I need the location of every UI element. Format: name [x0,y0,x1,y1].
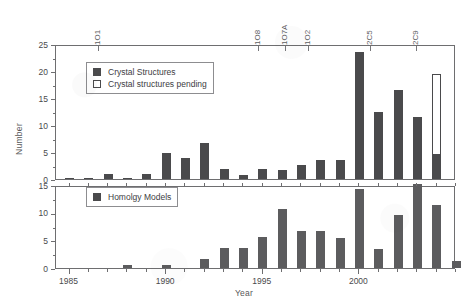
upper-y-minor-tick [53,86,56,87]
x-major-tick-1995 [262,269,263,274]
top-annotation-label-2c5: 2C5 [365,30,374,45]
upper-y-minor-tick [53,113,56,114]
mid-axis-tick [242,183,243,186]
bar-crystal-structures-1991 [181,158,190,179]
bar-crystal-structures-1996 [278,170,287,179]
mid-axis-tick [281,183,282,186]
upper-y-minor-tick [53,167,56,168]
x-tick-label-1985: 1985 [53,276,85,286]
x-minor-tick [126,269,127,272]
top-annotation-label-2c9: 2C9 [411,30,420,45]
mid-axis-tick [223,183,224,186]
x-minor-tick [223,269,224,272]
bar-homology-models-1996 [278,209,287,268]
bar-homology-models-1990 [162,265,171,268]
bar-crystal-structures-1998 [316,160,325,179]
x-minor-tick [397,269,398,272]
x-minor-tick [300,269,301,272]
upper-y-tick [51,45,55,46]
bar-crystal-structures-1985 [65,178,74,179]
bar-homology-models-2004 [432,205,441,268]
mid-axis-tick [184,183,185,186]
x-axis-title: Year [235,288,253,298]
bar-crystal-structures-2002 [394,90,403,179]
mid-axis-tick [320,183,321,186]
legend-item-homology-models: Homolgy Models [93,191,171,203]
x-minor-tick [436,269,437,272]
bar-crystal-structures-1987 [104,174,113,179]
mid-axis-tick [165,183,166,186]
upper-y-tick [51,72,55,73]
x-minor-tick [455,269,456,272]
bar-homology-models-2003 [413,184,422,268]
upper-y-tick-label-25: 25 [28,40,48,50]
bar-homology-models-1998 [316,231,325,268]
lower-y-tick [51,214,55,215]
mid-axis-tick [416,183,417,186]
upper-y-tick-label-5: 5 [28,148,48,158]
bar-crystal-structures-2001 [374,112,383,180]
legend-label-crystal-structures-pending: Crystal structures pending [108,79,207,89]
bar-crystal-structures-2000 [355,52,364,179]
x-minor-tick [107,269,108,272]
upper-y-tick [51,99,55,100]
upper-legend: Crystal Structures Crystal structures pe… [86,62,214,94]
legend-label-homology-models: Homolgy Models [108,192,171,202]
top-annotation-label-1o1: 1O1 [93,30,102,45]
x-tick-label-1995: 1995 [246,276,278,286]
legend-item-crystal-structures-pending: Crystal structures pending [93,78,207,90]
bar-crystal-structures-1994 [239,175,248,179]
upper-y-tick-label-15: 15 [28,94,48,104]
bar-homology-models-1988 [123,265,132,268]
mid-axis-tick [88,183,89,186]
mid-axis-tick [126,183,127,186]
bar-crystal-structures-1997 [297,165,306,179]
mid-axis-tick [378,183,379,186]
top-annotation-label-1o7a: 1O7A [280,25,289,45]
x-minor-tick [378,269,379,272]
lower-y-tick-label-5: 5 [28,236,48,246]
mid-axis-tick [436,183,437,186]
bar-crystal-structures-1989 [142,174,151,179]
legend-swatch-model-icon [93,193,101,201]
lower-y-tick [51,186,55,187]
lower-y-tick-label-10: 10 [28,208,48,218]
x-minor-tick [146,269,147,272]
bar-crystal-structures-1999 [336,160,345,179]
upper-y-tick [51,153,55,154]
top-annotation-label-1o8: 1O8 [253,30,262,45]
bar-homology-models-2001 [374,249,383,268]
mid-axis-tick [339,183,340,186]
lower-y-tick [51,241,55,242]
legend-label-crystal-structures: Crystal Structures [108,67,176,77]
x-minor-tick [281,269,282,272]
bar-homology-models-1994 [239,248,248,268]
bar-homology-models-2002 [394,215,403,268]
bar-crystal-structures-1995 [258,169,267,179]
bar-homology-models-1997 [297,231,306,268]
x-minor-tick [184,269,185,272]
top-annotation-label-1o2: 1O2 [303,30,312,45]
mid-axis-tick [107,183,108,186]
upper-y-tick-label-20: 20 [28,67,48,77]
upper-y-minor-tick [53,59,56,60]
y-axis-title: Number [14,123,24,155]
bar-homology-models-1992 [200,259,209,268]
lower-y-tick [51,269,55,270]
upper-y-tick [51,180,55,181]
mid-axis-tick [262,183,263,186]
x-minor-tick [320,269,321,272]
mid-axis-tick [69,183,70,186]
x-major-tick-1985 [69,269,70,274]
x-minor-tick [88,269,89,272]
bar-homology-models-2005 [452,261,461,268]
lower-y-tick-label-0: 0 [28,264,48,274]
x-minor-tick [416,269,417,272]
chart-figure: 1O11O81O7A1O22C52C9 0510152025 051015 19… [0,0,470,303]
bar-crystal-structures-1990 [162,153,171,179]
mid-axis-tick [455,183,456,186]
bar-crystal-structures-2004 [432,155,441,179]
lower-y-minor-tick [53,255,56,256]
bar-homology-models-1993 [220,248,229,268]
bar-crystal-pending-2004 [432,74,441,156]
